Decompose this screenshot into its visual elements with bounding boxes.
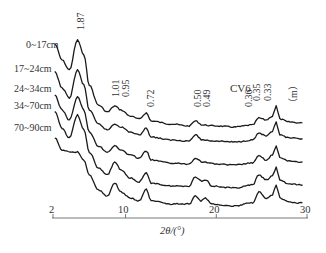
peak-label-0-72: 0.72: [146, 90, 156, 108]
peak-label-1-87: 1.87: [76, 13, 86, 31]
peak-label-0-33: 0.33: [263, 84, 273, 102]
x-tick-30: 30: [300, 204, 311, 215]
x-axis-ticks: [53, 214, 307, 218]
series-label-4: 70~90cm: [14, 123, 52, 133]
series-label-1: 17~24cm: [14, 64, 52, 74]
peak-label-0-35: 0.35: [252, 84, 262, 102]
series-label-2: 24~34cm: [14, 84, 52, 94]
x-tick-10: 10: [118, 204, 129, 215]
peak-label-0-49: 0.49: [202, 90, 212, 108]
diffraction-traces: [55, 40, 303, 207]
trace-17~24cm: [55, 70, 303, 143]
peak-label-0-95: 0.95: [121, 80, 131, 98]
x-tick-20: 20: [209, 204, 220, 215]
x-tick-2: 2: [49, 204, 54, 215]
unit-label: （m）: [289, 80, 299, 108]
series-label-3: 34~70cm: [14, 101, 52, 111]
x-axis-label: 2θ/(°): [160, 225, 185, 236]
trace-34~70cm: [55, 112, 303, 189]
trace-70~90cm: [55, 138, 303, 206]
series-label-0: 0~17cm: [26, 40, 59, 50]
